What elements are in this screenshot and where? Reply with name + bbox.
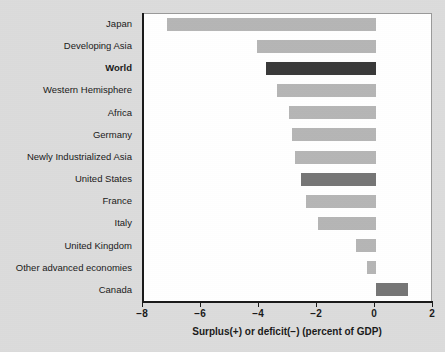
x-axis-tick <box>142 301 143 307</box>
x-axis-tick-label: −4 <box>252 308 263 319</box>
plot-top-border <box>144 13 432 14</box>
category-label: Other advanced economies <box>0 257 136 279</box>
bar <box>292 128 376 141</box>
category-axis-labels: JapanDeveloping AsiaWorldWestern Hemisph… <box>0 13 136 301</box>
x-axis-label: Surplus(+) or deficit(−) (percent of GDP… <box>142 326 432 337</box>
category-label: Italy <box>0 212 136 234</box>
category-label: World <box>0 57 136 79</box>
bar <box>266 62 376 75</box>
bar <box>318 217 376 230</box>
x-axis-tick <box>432 301 433 307</box>
bar <box>306 195 376 208</box>
bar <box>257 40 376 53</box>
bar <box>301 173 376 186</box>
bar <box>277 84 376 97</box>
category-label: Africa <box>0 102 136 124</box>
plot-area <box>142 13 432 301</box>
category-label: France <box>0 190 136 212</box>
chart-figure: JapanDeveloping AsiaWorldWestern Hemisph… <box>0 0 445 352</box>
category-label: Canada <box>0 279 136 301</box>
x-axis-tick-label: 0 <box>371 308 377 319</box>
x-axis-tick-label: −2 <box>310 308 321 319</box>
category-label: Japan <box>0 13 136 35</box>
bar <box>167 18 376 31</box>
category-label: Western Hemisphere <box>0 79 136 101</box>
bar <box>376 283 408 296</box>
category-label: United States <box>0 168 136 190</box>
x-axis-tick <box>200 301 201 307</box>
category-label: Developing Asia <box>0 35 136 57</box>
x-axis-tick-label: −6 <box>194 308 205 319</box>
plot-right-border <box>431 13 432 301</box>
x-axis-tick-label: −8 <box>136 308 147 319</box>
bar <box>289 106 376 119</box>
x-axis-tick-label: 2 <box>429 308 435 319</box>
category-label: Germany <box>0 124 136 146</box>
x-axis-tick <box>316 301 317 307</box>
bar <box>356 239 376 252</box>
category-label: United Kingdom <box>0 235 136 257</box>
x-axis-line <box>142 301 432 303</box>
bar <box>295 151 376 164</box>
bar <box>367 261 376 274</box>
x-axis-tick <box>258 301 259 307</box>
category-label: Newly Industrialized Asia <box>0 146 136 168</box>
x-axis-tick <box>374 301 375 307</box>
